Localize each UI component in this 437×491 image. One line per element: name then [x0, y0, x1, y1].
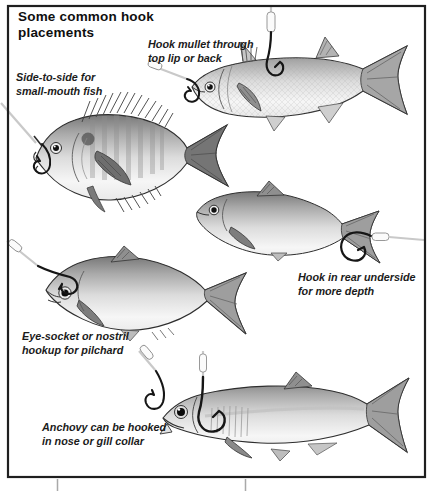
annotation-mullet: Hook mullet through top lip or back: [148, 38, 254, 66]
anchovy-tail: [366, 378, 409, 452]
mullet-pelvic-fin: [266, 116, 285, 131]
pilchard-tail: [204, 273, 246, 334]
mullet-top-lip-hook: [147, 59, 199, 101]
fishing-line: [389, 237, 424, 240]
baitfish-illustration: [197, 181, 380, 263]
leader-sleeve: [7, 238, 23, 253]
baitfish-pelvic-fin: [271, 253, 287, 261]
annotation-small-mouth: Side-to-side for small-mouth fish: [16, 71, 102, 99]
baitfish-pupil: [211, 207, 216, 212]
pilchard-dorsal-fin: [111, 246, 139, 262]
leader-sleeve: [267, 12, 275, 32]
anchovy-anal-fin: [308, 443, 337, 455]
leader-sleeve: [372, 233, 389, 241]
mullet-tail: [361, 46, 407, 114]
leader-sleeve: [200, 354, 207, 372]
pilchard-anal-spines: [152, 328, 174, 340]
nose-hook: [139, 344, 164, 409]
mullet-eye-highlight: [208, 85, 210, 87]
anchovy-dorsal-fin: [284, 372, 312, 389]
small-mouth-fish-illustration: [34, 92, 228, 212]
bream-eye-highlight: [54, 146, 56, 148]
anchovy-pelvic-fin: [271, 449, 290, 461]
annotation-anchovy: Anchovy can be hooked in nose or gill co…: [42, 421, 166, 449]
baitfish-dorsal-fin: [257, 181, 284, 196]
crop-marks: [58, 479, 246, 491]
figure-title: Some common hook placements: [18, 9, 154, 40]
anchovy-eye-highlight: [178, 408, 180, 410]
bream-dark-spot: [82, 133, 95, 146]
hook-icon: [146, 371, 164, 409]
bream-pupil: [53, 145, 59, 151]
pilchard-illustration: [46, 246, 246, 341]
bream-tail: [185, 125, 228, 186]
annotation-rear-underside: Hook in rear underside for more depth: [298, 271, 416, 299]
mullet-second-dorsal-fin: [316, 37, 339, 58]
annotation-pilchard: Eye-socket or nostril hookup for pilchar…: [22, 330, 129, 358]
fishing-line: [1, 103, 36, 143]
figure-canvas: Some common hook placements Hook mullet …: [0, 0, 437, 491]
